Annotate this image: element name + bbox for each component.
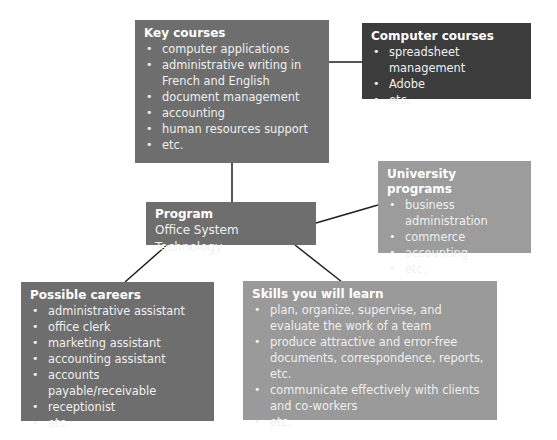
list-item: computer applications [144,41,320,57]
university-programs-list: business administration commerce account… [387,197,522,277]
list-item: etc. [144,137,320,153]
list-item: etc. [371,92,522,108]
university-programs-box: University programs business administrat… [378,161,531,253]
list-item: spreadsheet management [371,44,522,76]
key-courses-list: computer applications administrative wri… [144,41,320,153]
possible-careers-title: Possible careers [30,288,205,303]
list-item: etc. [387,261,522,277]
list-item: produce attractive and error-free docume… [252,334,488,382]
list-item: accounting assistant [30,351,205,367]
list-item: commerce [387,229,522,245]
list-item: accounting [387,245,522,261]
skills-title: Skills you will learn [252,287,488,302]
program-title: Program [155,207,307,222]
computer-courses-box: Computer courses spreadsheet management … [362,23,531,99]
skills-list: plan, organize, supervise, and evaluate … [252,302,488,430]
list-item: Adobe [371,76,522,92]
list-item: communicate effectively with clients and… [252,382,488,414]
list-item: plan, organize, supervise, and evaluate … [252,302,488,334]
program-box: Program Office System Technology [146,202,316,245]
key-courses-box: Key courses computer applications admini… [135,20,329,163]
list-item: etc. [30,415,205,431]
university-programs-title: University programs [387,167,522,197]
program-name: Office System Technology [155,222,307,256]
skills-box: Skills you will learn plan, organize, su… [243,281,497,420]
possible-careers-box: Possible careers administrative assistan… [21,282,214,421]
list-item: office clerk [30,319,205,335]
list-item: marketing assistant [30,335,205,351]
list-item: document management [144,89,320,105]
possible-careers-list: administrative assistant office clerk ma… [30,303,205,431]
computer-courses-list: spreadsheet management Adobe etc. [371,44,522,108]
connector-program-to-university [316,205,378,223]
computer-courses-title: Computer courses [371,29,522,44]
list-item: business administration [387,197,522,229]
list-item: administrative writing in French and Eng… [144,57,320,89]
list-item: human resources support [144,121,320,137]
list-item: administrative assistant [30,303,205,319]
key-courses-title: Key courses [144,26,320,41]
list-item: receptionist [30,399,205,415]
list-item: etc. [252,414,488,430]
list-item: accounts payable/receivable [30,367,205,399]
list-item: accounting [144,105,320,121]
